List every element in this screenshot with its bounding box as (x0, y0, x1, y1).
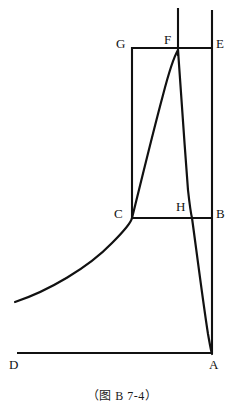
vertex-label-g: G (116, 37, 125, 50)
vertex-label-h: H (176, 200, 185, 213)
vertex-label-c: C (114, 207, 123, 220)
vertex-label-e: E (216, 37, 224, 50)
figure-container: G F E C H B D A （图 B 7-4） (0, 0, 244, 420)
vertex-label-a: A (209, 358, 218, 371)
vertex-label-f: F (164, 33, 171, 46)
straight-segments (17, 8, 213, 354)
vertex-label-d: D (9, 358, 18, 371)
rising-curve-left-to-f-path (15, 50, 178, 302)
vertex-label-b: B (216, 207, 225, 220)
figure-caption: （图 B 7-4） (0, 386, 244, 404)
